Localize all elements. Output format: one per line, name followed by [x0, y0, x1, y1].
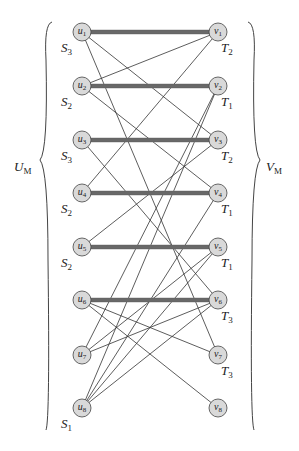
left-set-label: UM	[14, 160, 31, 176]
node-label-v5: v5	[207, 241, 229, 253]
group-label-v5: T1	[221, 256, 233, 272]
node-label-u3: u3	[71, 134, 93, 146]
group-label-u3: S3	[61, 149, 72, 165]
node-label-u4: u4	[71, 187, 93, 199]
node-label-u5: u5	[71, 241, 93, 253]
node-label-v3: v3	[207, 134, 229, 146]
node-label-v1: v1	[207, 26, 229, 38]
group-label-u2: S2	[61, 95, 72, 111]
group-label-v6: T3	[221, 309, 233, 325]
group-label-v3: T2	[221, 149, 233, 165]
node-label-v8: v8	[207, 402, 229, 414]
group-label-v1: T2	[221, 41, 233, 57]
right-set-label: VM	[266, 160, 282, 176]
group-label-u8: S1	[61, 417, 72, 433]
node-label-v6: v6	[207, 294, 229, 306]
bipartite-graph	[0, 0, 299, 451]
edge-u4-v1	[82, 32, 218, 193]
group-label-u5: S2	[61, 256, 72, 272]
node-label-v2: v2	[207, 80, 229, 92]
node-label-u1: u1	[71, 26, 93, 38]
node-label-u6: u6	[71, 294, 93, 306]
edge-u2-v1	[82, 32, 218, 86]
edge-u7-v2	[82, 86, 218, 355]
node-label-u7: u7	[71, 349, 93, 361]
node-label-u2: u2	[71, 80, 93, 92]
node-label-v4: v4	[207, 187, 229, 199]
group-label-v2: T1	[221, 95, 233, 111]
right-brace	[248, 22, 260, 430]
group-label-v4: T1	[221, 202, 233, 218]
edge-u8-v5	[82, 247, 218, 408]
group-label-u1: S3	[61, 41, 72, 57]
group-label-v7: T3	[221, 364, 233, 380]
node-label-u8: u8	[71, 402, 93, 414]
group-label-u4: S2	[61, 202, 72, 218]
node-label-v7: v7	[207, 349, 229, 361]
left-brace	[40, 22, 52, 430]
